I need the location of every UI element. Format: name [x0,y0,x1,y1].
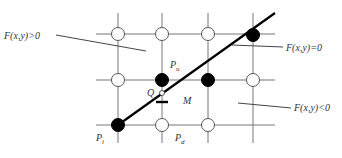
pixel-open [202,119,215,132]
pixel-open [247,74,260,87]
label-point-pi: Pi [95,132,104,146]
pixel-filled [202,74,215,87]
label-region-positive: F(x,y)>0 [3,30,40,42]
pixel-open [202,28,215,41]
label-region-negative: F(x,y)<0 [293,102,330,114]
pixel-open [156,28,169,41]
label-point-pd: Pd [174,132,185,146]
leader-line-positive [56,35,146,51]
pixel-filled [247,29,260,42]
midpoint-diagram: F(x,y)>0 F(x,y)=0 F(x,y)<0 Pu Q M Pi Pd [0,0,342,158]
leader-line-negative [238,103,291,108]
pixel-filled-pu [156,74,169,87]
label-point-q: Q [147,87,155,98]
label-point-pu: Pu [169,59,180,73]
pixel-filled-pi [112,119,125,132]
intersection-point-q [160,91,165,96]
pixel-open [112,74,125,87]
pixel-open-pd [156,119,169,132]
label-point-m: M [182,95,192,106]
pixel-open [112,28,125,41]
leader-line-zero [232,45,283,47]
label-region-zero: F(x,y)=0 [285,42,322,54]
